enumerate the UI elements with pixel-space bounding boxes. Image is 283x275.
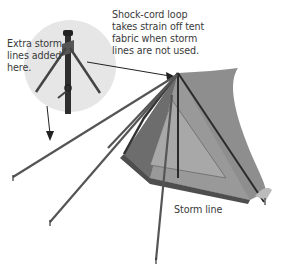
shock-cord-loop-label: Shock-cord loop takes strain off tent fa…	[112, 9, 204, 57]
tent-icon	[120, 68, 272, 204]
tent-storm-line-diagram: Extra storm lines added here. Shock-cord…	[0, 0, 283, 275]
arrow-to-storm-lines	[46, 106, 54, 141]
storm-line-label: Storm line	[174, 204, 222, 216]
extra-storm-lines-label: Extra storm lines added here.	[7, 38, 62, 74]
